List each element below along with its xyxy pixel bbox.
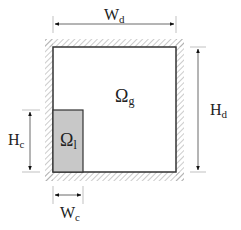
height-domain-dimension bbox=[190, 47, 206, 172]
dam-break-diagram: Wd Hd Hc Wc Ωg Ωl bbox=[0, 0, 241, 230]
height-column-dimension bbox=[22, 110, 40, 172]
width-column-label: Wc bbox=[60, 204, 80, 223]
width-column-dimension bbox=[53, 186, 83, 204]
height-domain-label: Hd bbox=[210, 101, 228, 120]
height-column-label: Hc bbox=[8, 131, 25, 150]
width-domain-label: Wd bbox=[104, 6, 125, 25]
